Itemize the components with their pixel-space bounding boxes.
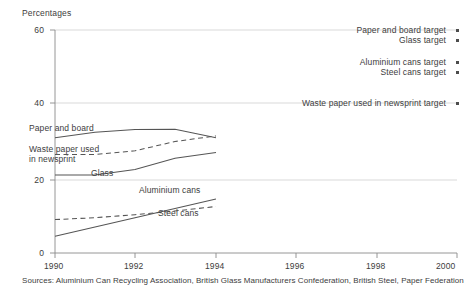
series-line-glass	[55, 153, 216, 175]
x-tick-label-1996: 1996	[285, 261, 304, 271]
series-label-steel-cans: Steel cans	[158, 208, 199, 218]
source-note: Sources: Aluminium Can Recycling Associa…	[22, 276, 464, 285]
plot-canvas	[0, 0, 464, 285]
x-tick-label-1998: 1998	[366, 261, 385, 271]
y-tick-label-60: 60	[18, 25, 44, 35]
target-marker-waste-paper-newsprint	[456, 102, 459, 105]
x-tick-label-2000: 2000	[436, 261, 455, 271]
series-label-aluminium-cans: Aluminium cans	[139, 185, 200, 195]
target-label-glass: Glass target	[399, 35, 446, 45]
x-tick-label-1992: 1992	[124, 261, 143, 271]
target-marker-steel-cans	[456, 71, 459, 74]
y-tick-label-40: 40	[18, 98, 44, 108]
y-tick-marks	[50, 30, 55, 253]
target-marker-glass	[456, 39, 459, 42]
target-label-paper-and-board: Paper and board target	[356, 25, 446, 35]
y-tick-label-20: 20	[18, 175, 44, 185]
series-label-paper-and-board: Paper and board	[29, 123, 94, 133]
series-label-waste-paper-newsprint-line2: in newsprint	[29, 154, 76, 164]
target-label-steel-cans: Steel cans target	[381, 67, 447, 77]
x-tick-label-1990: 1990	[44, 261, 63, 271]
series-label-waste-paper-newsprint-line1: Waste paper used	[29, 144, 99, 154]
target-label-waste-paper-newsprint: Waste paper used in newsprint target	[302, 98, 446, 108]
x-tick-marks	[55, 253, 457, 258]
target-label-aluminium-cans: Aluminium cans target	[360, 57, 446, 67]
target-marker-paper-and-board	[456, 29, 459, 32]
recycling-line-chart: Recycling of materials Percentages	[0, 0, 464, 285]
target-marker-aluminium-cans	[456, 61, 459, 64]
x-tick-label-1994: 1994	[205, 261, 224, 271]
series-label-glass: Glass	[91, 168, 113, 178]
y-tick-label-0: 0	[18, 248, 44, 258]
